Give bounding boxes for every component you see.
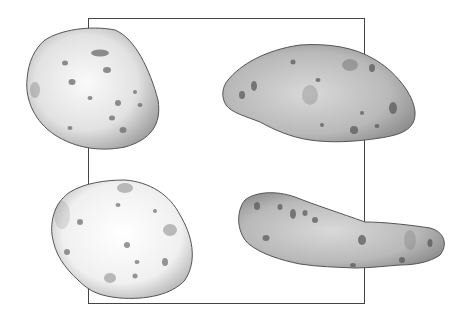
potatoes-drawing <box>0 0 474 324</box>
potato-bottom-left <box>52 180 193 298</box>
potato-top-right <box>223 45 415 142</box>
potato-illustration: Pencil illustration of four potatoes arr… <box>0 0 474 324</box>
potato-top-left <box>27 28 159 149</box>
potato-bottom-right <box>239 193 445 268</box>
